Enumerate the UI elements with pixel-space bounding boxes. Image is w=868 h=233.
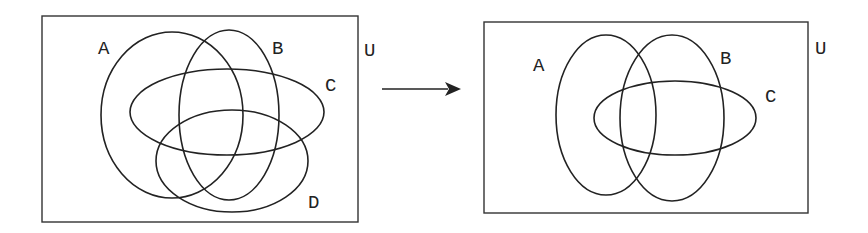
left-venn-diagram: A B C D U bbox=[42, 16, 375, 222]
transform-arrow-icon bbox=[382, 82, 461, 96]
left-set-a-ellipse bbox=[101, 32, 243, 198]
right-venn-diagram: A B C U bbox=[484, 22, 826, 213]
right-set-c-ellipse bbox=[594, 81, 756, 155]
right-label-c: C bbox=[765, 86, 776, 108]
right-universe-rect bbox=[484, 22, 808, 213]
left-label-d: D bbox=[308, 192, 319, 214]
right-label-a: A bbox=[533, 55, 545, 77]
right-set-b-ellipse bbox=[620, 35, 724, 201]
left-label-c: C bbox=[325, 75, 336, 97]
right-label-b: B bbox=[720, 48, 731, 70]
venn-transformation-figure: A B C D U A B C U bbox=[0, 0, 868, 233]
left-label-b: B bbox=[272, 38, 283, 60]
left-label-universe: U bbox=[364, 40, 375, 62]
left-label-a: A bbox=[98, 38, 110, 60]
left-set-c-ellipse bbox=[130, 69, 324, 155]
right-set-a-ellipse bbox=[556, 35, 656, 195]
right-label-universe: U bbox=[815, 38, 826, 60]
